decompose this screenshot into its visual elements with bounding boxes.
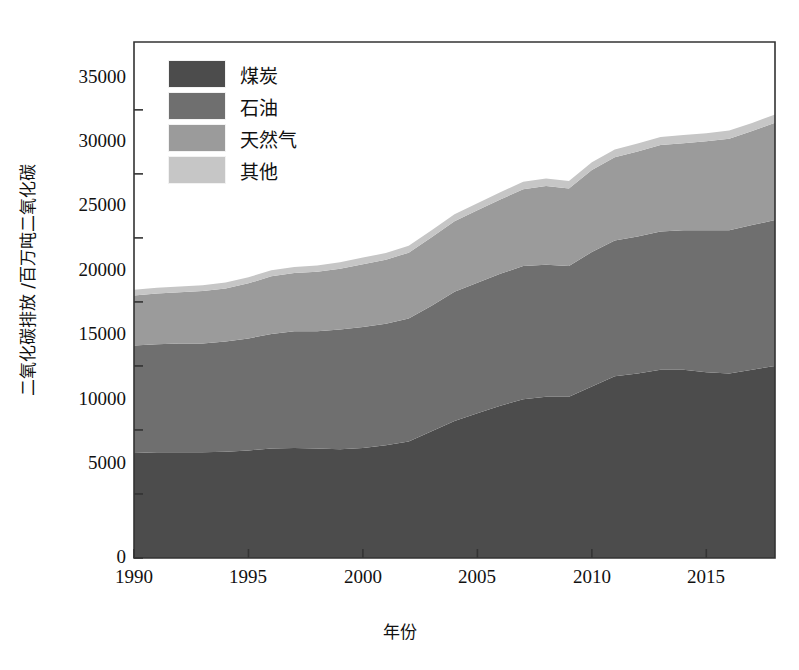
legend-swatch-icon [168,124,226,152]
y-tick-label: 5000 [46,452,126,474]
y-tick-label: 20000 [46,259,126,281]
x-tick-label: 2000 [323,566,403,588]
y-tick-label: 0 [46,546,126,568]
x-tick-label: 1995 [208,566,288,588]
stacked-area-chart-figure: 35000 30000 25000 20000 15000 10000 5000… [0,0,799,670]
y-tick-label: 25000 [46,194,126,216]
x-tick-label: 2010 [552,566,632,588]
x-tick-label: 2015 [666,566,746,588]
legend-swatch-icon [168,156,226,184]
legend-item-label: 煤炭 [240,61,278,88]
y-tick-label: 35000 [46,66,126,88]
y-tick-label: 30000 [46,130,126,152]
legend-item-label: 其他 [240,157,278,184]
legend-item-label: 天然气 [240,125,297,152]
y-tick-label: 15000 [46,323,126,345]
x-tick-label: 1990 [94,566,174,588]
y-axis-title: 二氧化碳排放 /百万吨二氧化碳 [14,150,39,410]
legend-item[interactable]: 石油 [168,90,358,122]
legend-item[interactable]: 天然气 [168,122,358,154]
legend-item-label: 石油 [240,93,278,120]
legend-swatch-icon [168,60,226,88]
y-tick-label: 10000 [46,388,126,410]
legend-item[interactable]: 其他 [168,154,358,186]
x-axis-title: 年份 [0,618,799,643]
x-tick-label: 2005 [437,566,517,588]
legend-swatch-icon [168,92,226,120]
chart-legend: 煤炭石油天然气其他 [168,58,358,186]
legend-item[interactable]: 煤炭 [168,58,358,90]
